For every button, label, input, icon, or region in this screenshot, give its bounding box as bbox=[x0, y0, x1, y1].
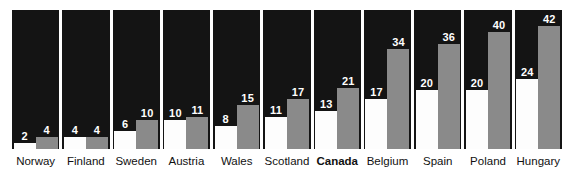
bar-value-label: 10 bbox=[133, 107, 161, 119]
bar-rect bbox=[516, 79, 538, 149]
bar-chart: 24446101011815111713211734203620402442 N… bbox=[0, 0, 571, 178]
bar-rect bbox=[287, 99, 309, 149]
bar-gray: 4 bbox=[36, 10, 58, 149]
category-axis: NorwayFinlandSwedenAustriaWalesScotlandC… bbox=[12, 152, 562, 174]
bar-rect bbox=[114, 131, 136, 149]
bar-group: 24 bbox=[12, 10, 59, 149]
bar-gray: 21 bbox=[337, 10, 359, 149]
bar-white: 8 bbox=[215, 10, 237, 149]
category-label-sweden: Sweden bbox=[113, 152, 160, 174]
category-label-austria: Austria bbox=[163, 152, 210, 174]
bar-gray: 17 bbox=[287, 10, 309, 149]
bar-group: 1011 bbox=[163, 10, 210, 149]
bar-rect bbox=[64, 137, 86, 149]
bar-value-label: 15 bbox=[234, 92, 262, 104]
bar-rect bbox=[36, 137, 58, 149]
bar-rect bbox=[538, 26, 560, 149]
bar-white: 6 bbox=[114, 10, 136, 149]
bar-rect bbox=[265, 117, 287, 149]
bar-value-label: 20 bbox=[463, 77, 491, 89]
bar-gray: 4 bbox=[86, 10, 108, 149]
bar-white: 10 bbox=[164, 10, 186, 149]
bar-rect bbox=[438, 44, 460, 149]
bar-group: 2442 bbox=[515, 10, 562, 149]
bar-value-label: 24 bbox=[513, 66, 541, 78]
bar-rect bbox=[466, 90, 488, 149]
bar-group: 1734 bbox=[364, 10, 411, 149]
bar-rect bbox=[416, 90, 438, 149]
bar-gray: 36 bbox=[438, 10, 460, 149]
bar-rect bbox=[365, 99, 387, 149]
bar-rect bbox=[215, 126, 237, 149]
bar-gray: 11 bbox=[186, 10, 208, 149]
bar-gray: 42 bbox=[538, 10, 560, 149]
bar-group: 2040 bbox=[464, 10, 511, 149]
bar-value-label: 11 bbox=[262, 104, 290, 116]
bar-value-label: 11 bbox=[183, 104, 211, 116]
bar-value-label: 36 bbox=[435, 31, 463, 43]
bar-value-label: 4 bbox=[33, 124, 61, 136]
category-label-poland: Poland bbox=[464, 152, 511, 174]
bar-white: 24 bbox=[516, 10, 538, 149]
bar-value-label: 42 bbox=[535, 13, 563, 25]
category-label-belgium: Belgium bbox=[364, 152, 411, 174]
bar-value-label: 4 bbox=[83, 124, 111, 136]
bar-gray: 40 bbox=[488, 10, 510, 149]
bar-value-label: 34 bbox=[384, 36, 412, 48]
bar-value-label: 21 bbox=[334, 75, 362, 87]
bar-group: 1321 bbox=[314, 10, 361, 149]
category-label-canada: Canada bbox=[314, 152, 361, 174]
bar-value-label: 6 bbox=[111, 118, 139, 130]
bar-value-label: 13 bbox=[312, 98, 340, 110]
bar-value-label: 40 bbox=[485, 19, 513, 31]
bar-gray: 10 bbox=[136, 10, 158, 149]
bar-rect bbox=[337, 88, 359, 149]
bar-group: 815 bbox=[213, 10, 260, 149]
bar-rect bbox=[315, 111, 337, 149]
bar-value-label: 20 bbox=[413, 77, 441, 89]
category-label-finland: Finland bbox=[62, 152, 109, 174]
bar-gray: 34 bbox=[387, 10, 409, 149]
bar-gray: 15 bbox=[237, 10, 259, 149]
category-label-spain: Spain bbox=[414, 152, 461, 174]
bar-group: 44 bbox=[62, 10, 109, 149]
bar-rect bbox=[237, 105, 259, 149]
category-label-hungary: Hungary bbox=[515, 152, 562, 174]
category-label-scotland: Scotland bbox=[263, 152, 310, 174]
bar-rect bbox=[387, 49, 409, 149]
bar-group: 2036 bbox=[414, 10, 461, 149]
bar-rect bbox=[136, 120, 158, 149]
bar-rect bbox=[186, 117, 208, 149]
bar-value-label: 8 bbox=[212, 113, 240, 125]
bar-value-label: 17 bbox=[362, 86, 390, 98]
bar-value-label: 17 bbox=[284, 86, 312, 98]
bar-white: 11 bbox=[265, 10, 287, 149]
bar-rect bbox=[488, 32, 510, 149]
bar-rect bbox=[164, 120, 186, 149]
bar-group: 610 bbox=[113, 10, 160, 149]
bar-rect bbox=[14, 143, 36, 149]
category-label-wales: Wales bbox=[213, 152, 260, 174]
category-label-norway: Norway bbox=[12, 152, 59, 174]
bar-group: 1117 bbox=[263, 10, 310, 149]
bar-rect bbox=[86, 137, 108, 149]
bar-white: 17 bbox=[365, 10, 387, 149]
plot-area: 24446101011815111713211734203620402442 bbox=[12, 10, 562, 149]
